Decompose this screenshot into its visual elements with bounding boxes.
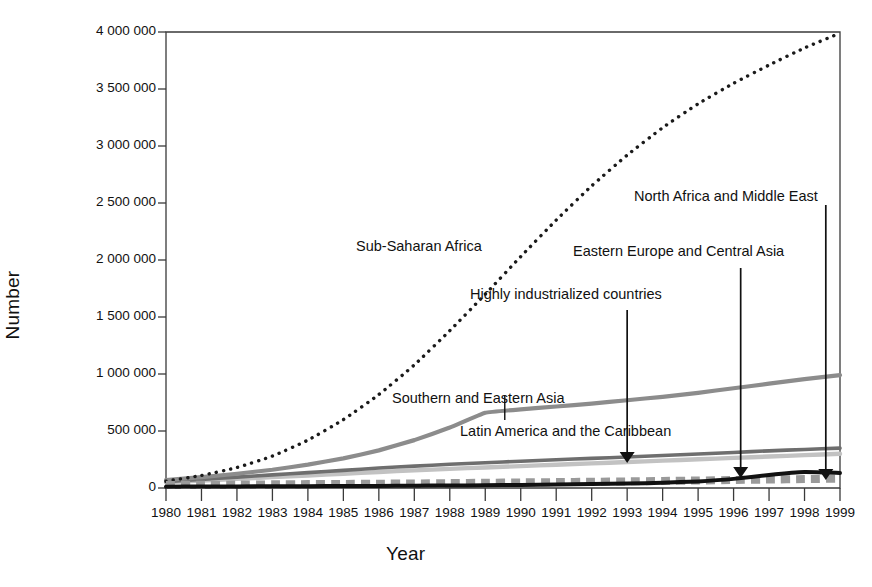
annotation-latin-america-caribbean: Latin America and the Caribbean <box>460 423 671 439</box>
annotation-north-africa-middle-east: North Africa and Middle East <box>634 188 818 204</box>
annotation-highly-industrialized: Highly industrialized countries <box>470 286 662 302</box>
leader-eastern-europe-central-asia <box>733 268 748 478</box>
plot-canvas <box>0 0 872 587</box>
chart-figure: Number Year 0500 0001 000 0001 500 0002 … <box>0 0 872 587</box>
leader-highly-industrialized <box>620 310 635 463</box>
annotation-sub-saharan-africa: Sub-Saharan Africa <box>356 238 482 254</box>
annotation-eastern-europe-central-asia: Eastern Europe and Central Asia <box>573 243 784 259</box>
leader-north-africa-middle-east <box>818 205 833 480</box>
annotation-southern-eastern-asia: Southern and Eastern Asia <box>392 390 565 406</box>
